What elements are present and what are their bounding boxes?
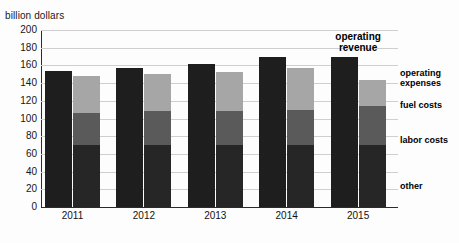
segment-fuel-costs-2014	[287, 68, 314, 110]
y-tick-100: 100	[3, 114, 37, 124]
y-tick-120: 120	[3, 96, 37, 106]
y-axis-title: billion dollars	[5, 10, 64, 21]
segment-labor-costs-2011	[73, 113, 100, 145]
y-tick-40: 40	[3, 167, 37, 177]
y-tick-200: 200	[3, 25, 37, 35]
bar-operating-expenses-2012	[144, 74, 171, 207]
bar-group-2013	[188, 30, 243, 207]
segment-other-2015	[359, 145, 386, 207]
x-tick-2013: 2013	[188, 210, 243, 221]
segment-labor-costs-2015	[359, 106, 386, 145]
y-tick-140: 140	[3, 78, 37, 88]
bar-operating-revenue-2015	[331, 57, 358, 207]
x-tick-2012: 2012	[116, 210, 171, 221]
segment-other-2013	[216, 145, 243, 207]
segment-labor-costs-2012	[144, 111, 171, 145]
segment-labor-costs-2014	[287, 110, 314, 145]
bar-operating-revenue-2013	[188, 64, 215, 207]
x-axis-line	[41, 207, 398, 208]
legend-label-operating-expenses-line1: operating	[400, 68, 441, 78]
segment-other-2014	[287, 145, 314, 207]
y-tick-20: 20	[3, 184, 37, 194]
legend-item-operating-expenses: operating expenses	[400, 68, 441, 88]
bar-operating-expenses-2013	[216, 72, 243, 207]
legend-label-operating-expenses-line2: expenses	[400, 78, 441, 88]
bar-group-2014	[259, 30, 314, 207]
y-tick-0: 0	[3, 202, 37, 212]
legend-label-other: other	[400, 181, 423, 191]
chart-legend: operating expenses fuel costs labor cost…	[400, 30, 459, 210]
callout-line-2: revenue	[317, 42, 400, 53]
bar-operating-revenue-2014	[259, 57, 286, 207]
legend-label-fuel-costs: fuel costs	[400, 100, 442, 110]
bar-operating-revenue-2011	[45, 71, 72, 207]
x-tick-2015: 2015	[331, 210, 386, 221]
bar-operating-expenses-2015	[359, 80, 386, 207]
bar-operating-expenses-2014	[287, 68, 314, 207]
segment-other-2012	[144, 145, 171, 207]
segment-fuel-costs-2015	[359, 80, 386, 107]
y-tick-80: 80	[3, 131, 37, 141]
x-tick-2011: 2011	[45, 210, 100, 221]
bar-operating-expenses-2011	[73, 76, 100, 207]
y-axis-tick-labels: 200180160140120100806040200	[0, 30, 37, 208]
legend-item-fuel-costs: fuel costs	[400, 100, 442, 110]
legend-item-other: other	[400, 181, 423, 191]
bar-chart: billion dollars 200180160140120100806040…	[0, 0, 459, 243]
legend-label-labor-costs: labor costs	[400, 135, 448, 145]
segment-labor-costs-2013	[216, 111, 243, 145]
callout-line-1: operating	[317, 31, 400, 42]
segment-fuel-costs-2011	[73, 76, 100, 113]
y-tick-180: 180	[3, 43, 37, 53]
segment-other-2011	[73, 145, 100, 207]
y-tick-160: 160	[3, 60, 37, 70]
bar-group-2011	[45, 30, 100, 207]
bar-operating-revenue-2012	[116, 68, 143, 207]
legend-item-labor-costs: labor costs	[400, 135, 448, 145]
bar-group-2015	[331, 30, 386, 207]
operating-revenue-callout: operating revenue	[317, 31, 400, 53]
x-tick-2014: 2014	[259, 210, 314, 221]
plot-area	[41, 30, 398, 207]
segment-fuel-costs-2013	[216, 72, 243, 111]
segment-fuel-costs-2012	[144, 74, 171, 111]
bar-group-2012	[116, 30, 171, 207]
y-tick-60: 60	[3, 149, 37, 159]
